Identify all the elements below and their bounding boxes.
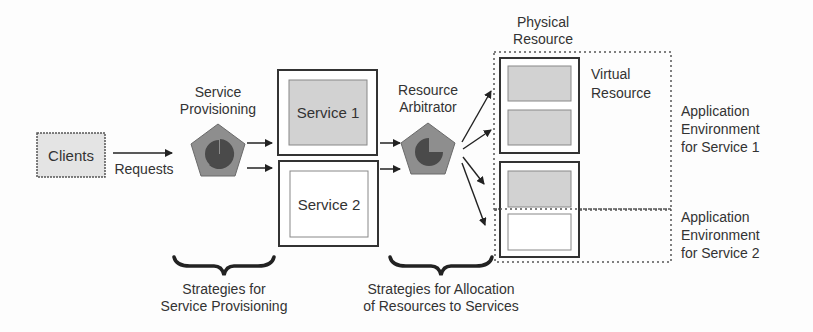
brace-allocation [390, 257, 492, 275]
strategy-provisioning-label-1: Strategies for [144, 281, 304, 298]
virtual-resource-label-1: Virtual [591, 66, 630, 83]
strategy-allocation-label-2: of Resources to Services [351, 298, 531, 315]
virtual-resource-1a [508, 66, 571, 101]
requests-label: Requests [106, 161, 182, 178]
resource-allocation-diagram: Clients Requests Service Provisioning Se… [0, 0, 813, 332]
virtual-resource-2a [508, 171, 571, 207]
service-provisioning-label-2: Provisioning [168, 101, 268, 118]
app-env-2-label-3: for Service 2 [681, 245, 760, 262]
app-env-1-label-1: Application [681, 103, 750, 120]
resource-arbitrator-label-2: Arbitrator [378, 99, 478, 116]
service-2-label: Service 2 [290, 171, 368, 237]
virtual-resource-2b [508, 214, 571, 250]
service-1-label: Service 1 [289, 80, 367, 145]
physical-resource-label-2: Resource [498, 31, 588, 48]
strategy-provisioning-label-2: Service Provisioning [144, 298, 304, 315]
virtual-resource-label-2: Resource [591, 85, 651, 102]
service-provisioning-icon [191, 124, 245, 176]
resource-arbitrator-icon [401, 123, 455, 174]
physical-resource-label-1: Physical [498, 14, 588, 31]
service-provisioning-label-1: Service [168, 84, 268, 101]
virtual-resource-1b [508, 110, 571, 145]
resource-arbitrator-label-1: Resource [378, 82, 478, 99]
strategy-allocation-label-1: Strategies for Allocation [351, 281, 531, 298]
app-env-1-label-3: for Service 1 [681, 139, 760, 156]
app-env-1-label-2: Environment [681, 121, 760, 138]
clients-label: Clients [37, 133, 105, 177]
app-env-2-label-2: Environment [681, 227, 760, 244]
brace-provisioning [174, 257, 274, 275]
app-env-2-label-1: Application [681, 209, 750, 226]
